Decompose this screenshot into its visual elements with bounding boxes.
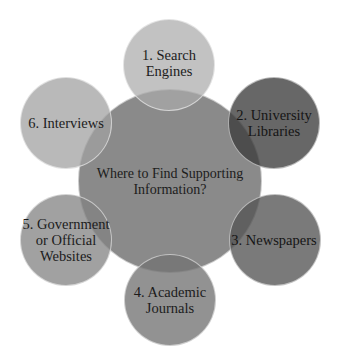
node-search-engines: 1. Search Engines bbox=[123, 19, 215, 111]
node-label: 6. Interviews bbox=[28, 115, 104, 131]
node-government-websites: 5. Government or Official Websites bbox=[20, 194, 112, 286]
node-newspapers: 3. Newspapers bbox=[229, 194, 321, 286]
radial-diagram: Where to Find Supporting Information? 1.… bbox=[0, 0, 339, 364]
node-label: 1. Search Engines bbox=[142, 47, 196, 79]
node-academic-journals: 4. Academic Journals bbox=[124, 254, 216, 346]
node-label: 2. University Libraries bbox=[236, 107, 312, 139]
node-university-libraries: 2. University Libraries bbox=[228, 77, 320, 169]
node-interviews: 6. Interviews bbox=[20, 77, 112, 169]
node-label: 5. Government or Official Websites bbox=[23, 216, 110, 264]
center-label: Where to Find Supporting Information? bbox=[97, 164, 244, 198]
node-label: 4. Academic Journals bbox=[134, 284, 206, 316]
node-label: 3. Newspapers bbox=[231, 232, 316, 248]
